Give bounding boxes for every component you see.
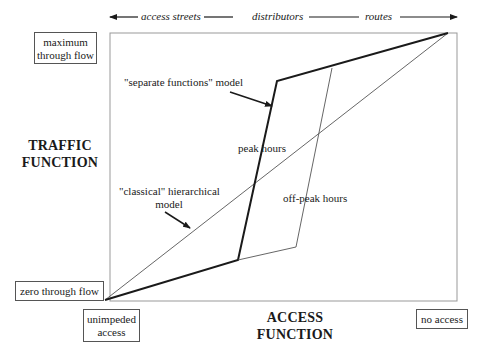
access-function-title: ACCESS FUNCTION <box>255 309 335 343</box>
traffic-function-line2: FUNCTION <box>20 154 100 171</box>
access-function-line2: FUNCTION <box>255 326 335 343</box>
separate-model-pointer-arrow <box>230 92 272 106</box>
max-through-flow-line1: maximum <box>35 36 96 49</box>
top-label-distributors: distributors <box>252 10 303 23</box>
top-label-routes: routes <box>365 10 392 23</box>
separate-functions-model-label: "separate functions" model <box>124 76 243 89</box>
unimpeded-access-box: unimpeded access <box>83 309 140 342</box>
classical-model-label: "classical" hierarchical model <box>119 185 219 211</box>
classical-model-line <box>105 33 448 300</box>
max-through-flow-line2: through flow <box>35 49 96 62</box>
max-through-flow-box: maximum through flow <box>34 32 97 64</box>
classical-model-line1: "classical" hierarchical <box>119 185 219 198</box>
peak-hours-label: peak hours <box>238 142 286 155</box>
classical-model-line2: model <box>119 198 219 211</box>
plot-frame <box>110 33 457 301</box>
no-access-label: no access <box>421 313 463 325</box>
unimpeded-access-line2: access <box>84 326 139 339</box>
unimpeded-access-line1: unimpeded <box>84 313 139 326</box>
off-peak-hours-label: off-peak hours <box>283 192 347 205</box>
zero-through-flow-label: zero through flow <box>20 285 99 297</box>
no-access-box: no access <box>416 309 468 329</box>
access-function-line1: ACCESS <box>255 309 335 326</box>
zero-through-flow-box: zero through flow <box>15 281 104 301</box>
traffic-function-title: TRAFFIC FUNCTION <box>20 137 100 171</box>
top-label-access-streets: access streets <box>141 10 201 23</box>
off-peak-hours-line <box>238 68 332 260</box>
classical-model-pointer-arrow <box>165 212 190 228</box>
traffic-function-line1: TRAFFIC <box>20 137 100 154</box>
